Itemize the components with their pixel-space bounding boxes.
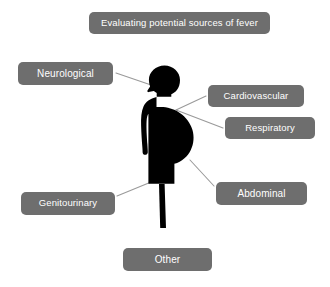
node-cardiovascular-label: Cardiovascular <box>224 91 289 101</box>
title-label: Evaluating potential sources of fever <box>101 18 258 28</box>
legs-shape <box>159 184 166 228</box>
head-shape <box>147 66 180 97</box>
pregnant-woman-silhouette <box>0 0 330 287</box>
fever-sources-diagram: Evaluating potential sources of fever Ne… <box>0 0 330 287</box>
node-genitourinary-label: Genitourinary <box>39 198 97 208</box>
node-other-label: Other <box>155 254 181 265</box>
node-neurological-label: Neurological <box>37 68 94 79</box>
node-cardiovascular[interactable]: Cardiovascular <box>208 85 304 107</box>
node-abdominal-label: Abdominal <box>237 188 285 199</box>
node-respiratory[interactable]: Respiratory <box>225 117 315 139</box>
node-respiratory-label: Respiratory <box>245 123 295 133</box>
torso-and-belly-shape <box>141 97 194 184</box>
node-neurological[interactable]: Neurological <box>18 62 113 85</box>
node-abdominal[interactable]: Abdominal <box>216 182 307 205</box>
title-box: Evaluating potential sources of fever <box>89 12 270 34</box>
node-genitourinary[interactable]: Genitourinary <box>21 192 115 215</box>
node-other[interactable]: Other <box>123 248 212 271</box>
